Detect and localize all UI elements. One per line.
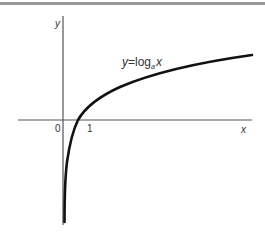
y-axis-label: y	[54, 18, 61, 29]
log-curve	[65, 55, 253, 222]
tick-label-one: 1	[87, 123, 93, 134]
function-arg: x	[155, 55, 163, 69]
function-label: y=logax	[121, 55, 163, 70]
x-axis-label: x	[240, 124, 247, 135]
origin-label: 0	[55, 123, 61, 134]
function-eq: =	[128, 55, 135, 69]
log-graph: y x 0 1 y=logax	[0, 0, 265, 238]
function-base: a	[151, 63, 155, 70]
function-name: log	[135, 55, 151, 69]
